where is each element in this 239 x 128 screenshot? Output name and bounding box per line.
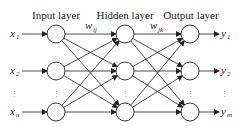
input-subscript: 1: [16, 33, 20, 41]
output-label-3: y: [220, 105, 226, 117]
input-subscript: n: [16, 111, 20, 119]
input-label-3: x: [9, 105, 15, 117]
input-label-1: x: [9, 27, 15, 39]
output-node-2: [181, 62, 199, 80]
nodes: [47, 25, 199, 121]
output-node-3: [181, 103, 199, 121]
input-label-2: x: [9, 64, 15, 76]
hidden-layer-title: Hidden layer: [96, 9, 153, 21]
output-subscript: 2: [227, 70, 231, 78]
ellipsis-icon: ⋮: [11, 90, 18, 98]
output-layer-title: Output layer: [163, 9, 219, 21]
ellipsis-icon: ⋮: [187, 90, 194, 98]
hidden-node-2: [116, 62, 134, 80]
output-label-1: y: [220, 27, 226, 39]
output-node-1: [181, 25, 199, 43]
svg-text:ij: ij: [93, 26, 97, 34]
svg-text:w: w: [150, 19, 158, 31]
ellipsis-icon: ⋮: [53, 90, 60, 98]
input-layer-title: Input layer: [32, 9, 80, 21]
ellipsis-icon: ⋮: [122, 90, 129, 98]
input-node-1: [47, 25, 65, 43]
hidden-node-1: [116, 25, 134, 43]
output-label-2: y: [220, 64, 226, 76]
neural-network-diagram: Input layer Hidden layer Output layer w …: [0, 0, 239, 128]
input-node-3: [47, 103, 65, 121]
ellipsis-markers: ⋮⋮⋮⋮⋮: [11, 90, 228, 98]
svg-text:jk: jk: [157, 26, 164, 34]
ellipsis-icon: ⋮: [221, 90, 228, 98]
input-node-2: [47, 62, 65, 80]
weight-label-ij: w ij: [85, 19, 97, 34]
output-subscript: m: [227, 111, 232, 119]
svg-text:w: w: [85, 19, 93, 31]
hidden-node-3: [116, 103, 134, 121]
input-subscript: 2: [16, 70, 20, 78]
weight-label-jk: w jk: [150, 19, 164, 34]
output-subscript: 1: [227, 33, 231, 41]
